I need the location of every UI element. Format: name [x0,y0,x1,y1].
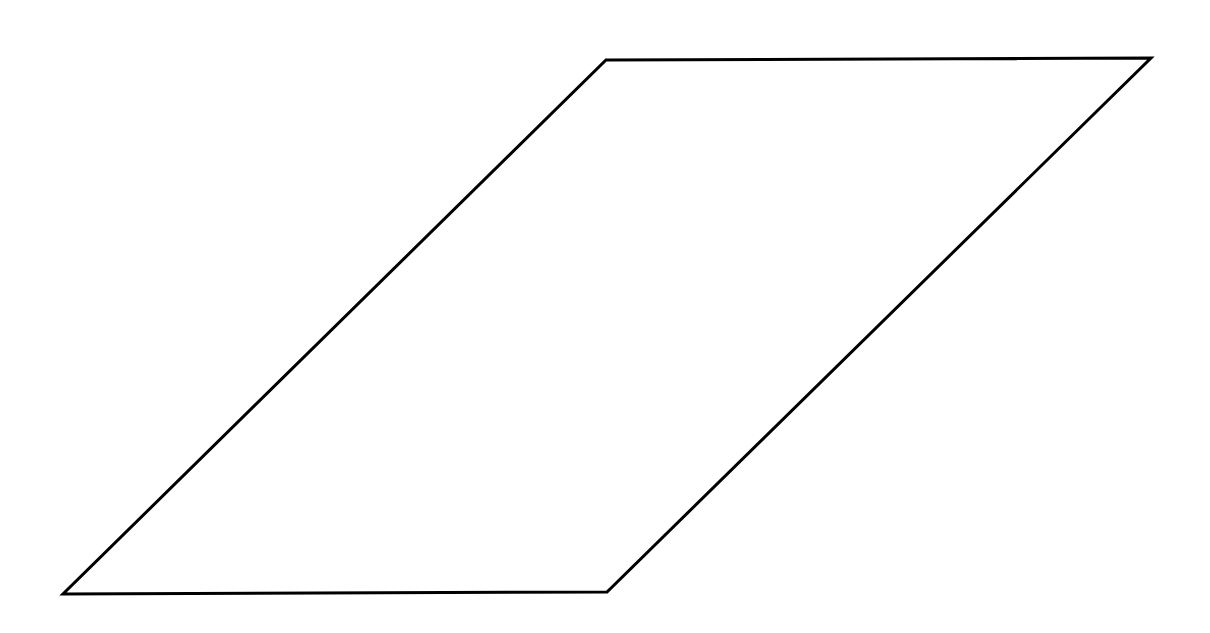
parallelogram-shape [63,58,1151,594]
diagram-canvas [0,0,1210,633]
